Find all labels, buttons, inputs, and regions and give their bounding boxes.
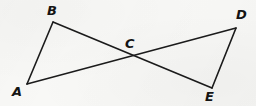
vertex-label-d: D <box>236 8 247 21</box>
geometry-figure: A B C D E <box>0 0 256 106</box>
vertex-label-a: A <box>12 85 22 98</box>
segment-AB <box>27 22 53 84</box>
segment-BE <box>53 22 212 88</box>
vertex-label-e: E <box>205 90 214 103</box>
edges-group <box>27 22 236 88</box>
segment-DE <box>212 28 236 88</box>
figure-canvas <box>0 0 256 106</box>
vertex-label-b: B <box>47 4 57 17</box>
vertex-label-c: C <box>125 37 135 50</box>
